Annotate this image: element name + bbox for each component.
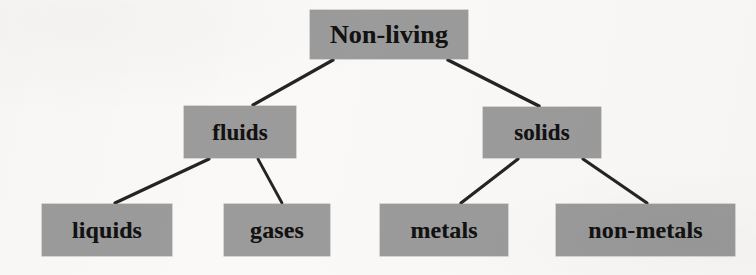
connector-solids-metals <box>461 159 518 203</box>
connector-fluids-liquids <box>115 159 209 203</box>
node-label-fluids: fluids <box>212 121 268 144</box>
connector-fluids-gases <box>258 159 282 203</box>
node-label-gases: gases <box>250 218 304 242</box>
node-non-metals: non-metals <box>556 204 735 256</box>
node-fluids: fluids <box>184 106 296 158</box>
connector-root-solids <box>448 60 539 106</box>
node-label-liquids: liquids <box>72 218 142 242</box>
node-metals: metals <box>380 204 508 256</box>
node-solids: solids <box>483 107 601 158</box>
classification-tree-diagram: Non-living fluids solids liquids gases m… <box>0 0 756 275</box>
node-liquids: liquids <box>42 204 172 256</box>
node-label-metals: metals <box>410 218 477 242</box>
node-label-non-metals: non-metals <box>588 218 702 242</box>
node-gases: gases <box>224 204 330 256</box>
connector-root-fluids <box>253 60 333 105</box>
node-non-living: Non-living <box>310 10 468 59</box>
node-label-solids: solids <box>514 121 570 144</box>
connector-solids-nonmetals <box>583 159 647 203</box>
node-label-non-living: Non-living <box>330 22 448 48</box>
